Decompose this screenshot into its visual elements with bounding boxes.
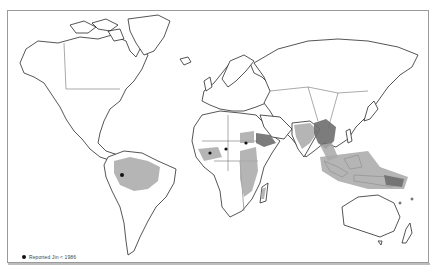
new-zealand [402,223,412,243]
greenland [128,15,170,55]
map-frame: Reported Jin < 1986 [7,10,429,263]
world-map [8,11,430,264]
legend: Reported Jin < 1986 [22,254,76,260]
australia [342,195,400,237]
iceland [180,57,191,65]
legend-label: Reported Jin < 1986 [29,254,76,260]
north-america [20,35,148,161]
asia [254,39,418,157]
tasmania [378,241,382,245]
legend-dot-icon [22,255,26,259]
shade-sudan [240,131,254,143]
reported-dot [120,173,124,177]
